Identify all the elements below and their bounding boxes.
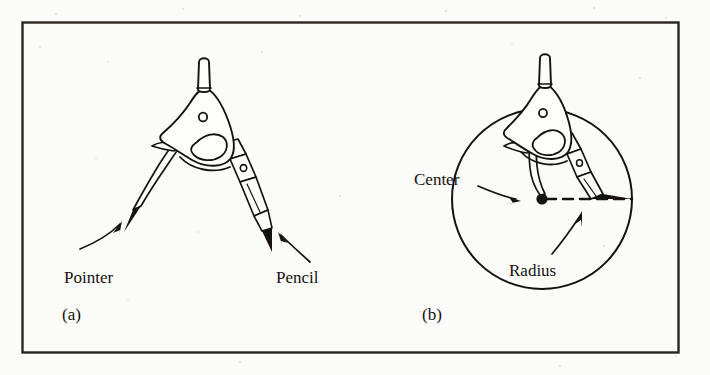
figure-page: Pointer Pencil (a) <box>0 0 710 375</box>
compass-a-pivot-hole <box>199 113 207 122</box>
figure-canvas: Pointer Pencil (a) <box>0 0 710 375</box>
compass-a-top-knob <box>198 58 210 92</box>
label-center: Center <box>414 170 460 189</box>
panel-label-a: (a) <box>62 305 81 324</box>
compass-b-clamp-screw-hole <box>577 160 583 166</box>
compass-b-pivot-hole <box>539 109 547 117</box>
label-radius: Radius <box>509 261 556 280</box>
label-pointer: Pointer <box>64 268 113 287</box>
label-pencil: Pencil <box>276 268 319 287</box>
paper-background <box>0 0 710 375</box>
compass-b-top-knob <box>539 54 551 88</box>
pencil-clamp-screw-hole <box>240 165 246 172</box>
panel-label-b: (b) <box>422 305 442 324</box>
